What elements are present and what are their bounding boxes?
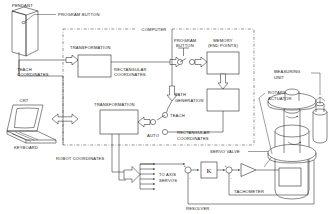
rect-coordinates-upper-line1: RECTANGULAR (114, 67, 147, 72)
sum2-minus-sign: - (231, 176, 233, 180)
memory-block[interactable] (207, 52, 239, 74)
teach-label: TEACH (170, 113, 185, 118)
rect-coordinates-lower-line1: RECTANGULAR (177, 130, 210, 135)
robot-coordinates-label: ROBOT COORDINATES (56, 156, 104, 161)
block-diagram-svg: COMPUTER PENDANT PROGRAM BUTTON TEACH CO… (0, 0, 328, 214)
rotary-actuator-illustration (268, 89, 327, 199)
program-button-top-label: PROGRAM BUTTON (58, 12, 100, 17)
diagram-canvas: COMPUTER PENDANT PROGRAM BUTTON TEACH CO… (0, 0, 328, 214)
servo-valve-label: SERVO VALVE (210, 149, 240, 154)
rect-coordinates-upper-line2: COORDINATES (114, 72, 146, 77)
transformation-2-block[interactable] (100, 110, 138, 134)
servo-loop: + - K + - (184, 162, 283, 180)
auto-label: AUTO (147, 133, 159, 138)
crt-label: CRT (20, 98, 29, 103)
transformation-1-block[interactable] (78, 55, 111, 77)
sum1-minus-sign: - (190, 176, 192, 180)
tachometer-label: TACHOMETER (234, 189, 264, 194)
rect-coordinates-upper-path (111, 57, 182, 67)
rotary-actuator-line2: ACTUATOR (268, 96, 292, 101)
keyboard-label: KEYBOARD (14, 145, 38, 150)
crt-bus-double-arrow (52, 114, 78, 124)
to-axis-servos-line1: TO AXIS (159, 172, 176, 177)
pendant-label: PENDANT (12, 3, 33, 8)
selector-contact-auto[interactable] (162, 129, 167, 134)
amplifier-triangle[interactable] (241, 164, 256, 177)
teach-coordinates-label-line1: TEACH (17, 67, 32, 72)
path-generation-line1: PATH (175, 92, 186, 97)
program-button-icon[interactable] (22, 21, 25, 23)
measuring-unit-line2: UNIT (274, 75, 285, 80)
memory-to-pathgen-arrow (218, 74, 228, 89)
robot-coordinates-path (112, 134, 140, 183)
path-generation-block[interactable] (207, 89, 239, 111)
teach-auto-selector[interactable] (138, 101, 172, 135)
teach-coordinates-label-line2: COORDINATES (17, 72, 49, 77)
gain-k-label: K (206, 167, 211, 175)
crt-keyboard-illustration (7, 105, 56, 143)
rect-coordinates-lower-line2: COORDINATES (177, 136, 209, 141)
computer-boundary-label: COMPUTER (142, 27, 167, 32)
measuring-unit-line1: MEASURING (274, 69, 300, 74)
resolver-label: RESOLVER (186, 206, 209, 211)
selector-contact-teach[interactable] (150, 119, 155, 124)
transformation-1-label: TRANSFORMATION (70, 45, 111, 50)
to-axis-servos-line2: SERVOS (159, 178, 177, 183)
transformation-2-label: TRANSFORMATION (94, 102, 135, 107)
path-generation-line2: GENERATION (175, 98, 204, 103)
memory-label-line2: (END POINTS) (208, 43, 238, 48)
rotary-actuator-line1: ROTARY (268, 90, 286, 95)
program-button-mid-line2: BUTTON (176, 43, 194, 48)
program-button-switch[interactable] (177, 48, 207, 67)
switch-contact-right[interactable] (189, 59, 194, 64)
